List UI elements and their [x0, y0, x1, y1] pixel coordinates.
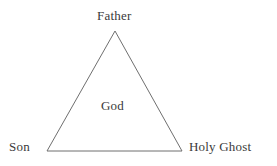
vertex-label-father: Father	[97, 9, 131, 22]
vertex-label-son: Son	[9, 140, 30, 153]
trinity-diagram: Father God Son Holy Ghost	[0, 0, 277, 166]
triangle-outline	[47, 31, 182, 151]
vertex-label-holy-ghost: Holy Ghost	[189, 140, 251, 153]
center-label-god: God	[101, 99, 124, 112]
